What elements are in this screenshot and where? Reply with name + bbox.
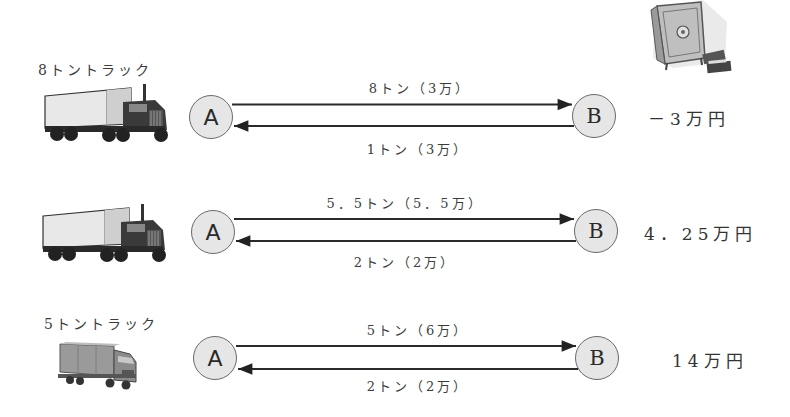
flow-arrows xyxy=(0,0,790,417)
